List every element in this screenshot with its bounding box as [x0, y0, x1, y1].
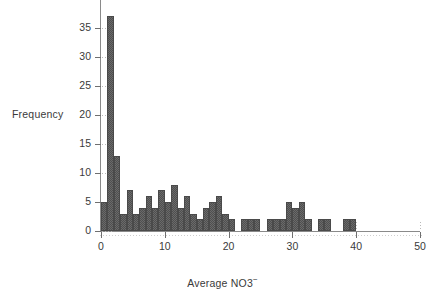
histogram-bar	[350, 219, 356, 231]
histogram-chart: Frequency Average NO3− 05101520253035 01…	[0, 0, 445, 304]
bars-layer	[0, 0, 445, 304]
histogram-bar	[254, 219, 260, 231]
histogram-bar	[324, 219, 330, 231]
histogram-bar	[305, 219, 311, 231]
histogram-bar	[229, 219, 235, 231]
